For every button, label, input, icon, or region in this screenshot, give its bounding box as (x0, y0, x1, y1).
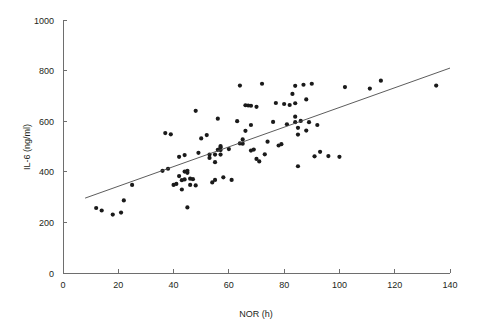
data-point (326, 154, 330, 158)
data-point (271, 120, 275, 124)
data-point (122, 198, 126, 202)
tick-marks-group (63, 20, 450, 273)
data-point (169, 132, 173, 136)
data-point (434, 83, 438, 87)
data-point (293, 115, 297, 119)
data-point (265, 140, 269, 144)
data-point (304, 128, 308, 132)
trendline-group (85, 68, 450, 198)
data-point (293, 101, 297, 105)
data-point (196, 151, 200, 155)
data-point (310, 82, 314, 86)
data-point (177, 174, 181, 178)
x-tick-label: 120 (387, 280, 402, 290)
data-point (252, 147, 256, 151)
data-point (100, 208, 104, 212)
x-tick-label: 20 (113, 280, 123, 290)
data-point (213, 160, 217, 164)
data-point (296, 164, 300, 168)
data-point (199, 136, 203, 140)
data-point (282, 102, 286, 106)
data-point (260, 82, 264, 86)
y-axis-title: IL-6 (ng/ml) (22, 124, 32, 170)
data-point (318, 150, 322, 154)
data-point (216, 117, 220, 121)
x-axis-title: NOR (h) (239, 309, 273, 319)
data-point (315, 123, 319, 127)
x-tick-labels: 020406080100120140 (60, 280, 457, 290)
data-point (188, 183, 192, 187)
y-tick-labels: 02004006008001000 (34, 16, 54, 279)
y-tick-label: 1000 (34, 16, 54, 26)
data-point (185, 169, 189, 173)
y-tick-label: 400 (39, 167, 54, 177)
data-point (307, 120, 311, 124)
data-point (337, 155, 341, 159)
data-point (293, 84, 297, 88)
data-point (218, 144, 222, 148)
data-point (296, 126, 300, 130)
data-point (221, 175, 225, 179)
y-tick-label: 0 (49, 269, 54, 279)
data-point (296, 133, 300, 137)
x-tick-label: 80 (279, 280, 289, 290)
x-tick-label: 0 (60, 280, 65, 290)
data-point (301, 83, 305, 87)
data-point (343, 85, 347, 89)
data-point (368, 86, 372, 90)
y-tick-label: 600 (39, 117, 54, 127)
data-point (235, 119, 239, 123)
data-point (183, 153, 187, 157)
data-point (205, 133, 209, 137)
data-point (191, 177, 195, 181)
data-point (174, 182, 178, 186)
scatter-chart: 020406080100120140 02004006008001000 NOR… (0, 0, 485, 328)
data-point (218, 153, 222, 157)
data-point (230, 178, 234, 182)
y-tick-label: 200 (39, 218, 54, 228)
data-points-group (94, 79, 438, 217)
data-point (312, 154, 316, 158)
data-point (249, 104, 253, 108)
data-point (279, 142, 283, 146)
x-tick-label: 40 (169, 280, 179, 290)
data-point (130, 183, 134, 187)
data-point (249, 123, 253, 127)
data-point (111, 212, 115, 216)
axes-group (63, 20, 450, 273)
data-point (274, 101, 278, 105)
data-point (213, 153, 217, 157)
data-point (243, 129, 247, 133)
data-point (185, 205, 189, 209)
data-point (213, 178, 217, 182)
x-tick-label: 60 (224, 280, 234, 290)
data-point (290, 92, 294, 96)
data-point (194, 109, 198, 113)
data-point (304, 97, 308, 101)
x-tick-label: 140 (442, 280, 457, 290)
data-point (238, 83, 242, 87)
data-point (379, 79, 383, 83)
figure-container: 020406080100120140 02004006008001000 NOR… (0, 0, 485, 328)
data-point (163, 131, 167, 135)
data-point (263, 152, 267, 156)
data-point (207, 156, 211, 160)
data-point (241, 137, 245, 141)
y-tick-label: 800 (39, 66, 54, 76)
trendline (85, 68, 450, 198)
data-point (180, 187, 184, 191)
data-point (94, 206, 98, 210)
data-point (177, 155, 181, 159)
data-point (119, 210, 123, 214)
data-point (257, 159, 261, 163)
data-point (288, 103, 292, 107)
x-tick-label: 100 (332, 280, 347, 290)
data-point (194, 183, 198, 187)
data-point (183, 177, 187, 181)
data-point (254, 105, 258, 109)
